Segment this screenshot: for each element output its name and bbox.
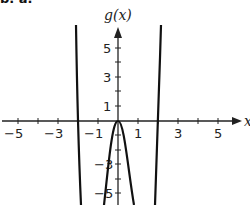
x-tick-label: −3 <box>44 126 63 141</box>
y-axis-arrow-icon <box>114 27 122 38</box>
x-axis-label: x <box>244 113 250 129</box>
x-tick-label: 3 <box>174 126 182 141</box>
y-tick-label: −5 <box>94 186 113 201</box>
y-tick-label: 5 <box>103 41 111 56</box>
y-axis-label: g(x) <box>104 7 132 23</box>
x-tick-label: −1 <box>84 126 103 141</box>
x-axis-arrow-icon <box>232 117 242 125</box>
x-tick-label: −5 <box>4 126 23 141</box>
y-tick-label: −3 <box>94 157 113 172</box>
graph: −5 −3 −1 1 3 5 5 3 1 −3 −5 x g(x) <box>0 0 250 205</box>
y-tick-label: 3 <box>103 70 111 85</box>
y-tick-label: 1 <box>103 99 111 114</box>
x-tick-label: 1 <box>134 126 142 141</box>
x-tick-label: 5 <box>214 126 222 141</box>
